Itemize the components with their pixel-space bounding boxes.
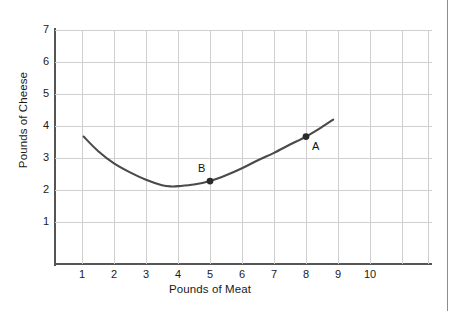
x-tick-label: 6 (230, 268, 254, 280)
point-label-a: A (312, 141, 319, 152)
x-tick-label: 4 (166, 268, 190, 280)
gridline-vertical (428, 30, 429, 264)
point-label-b: B (198, 163, 205, 174)
gridline-vertical (146, 30, 147, 264)
chart-canvas: 1234567 12345678910 Pounds of Cheese Pou… (0, 0, 459, 311)
gridline-vertical (178, 30, 179, 264)
plot-area (55, 30, 432, 264)
x-tick-label: 5 (198, 268, 222, 280)
y-tick-label: 7 (25, 24, 49, 35)
x-tick-label: 1 (70, 268, 94, 280)
gridline-horizontal (55, 94, 432, 95)
gridline-horizontal (55, 190, 432, 191)
x-tick-label: 3 (134, 268, 158, 280)
gridline-vertical (402, 30, 403, 264)
x-tick-label: 2 (102, 268, 126, 280)
x-tick-label: 8 (294, 268, 318, 280)
y-tick-label: 1 (25, 216, 49, 227)
x-tick-label: 9 (326, 268, 350, 280)
x-tick-label: 10 (358, 268, 382, 280)
gridline-vertical (306, 30, 307, 264)
gridline-vertical (274, 30, 275, 264)
gridline-vertical (82, 30, 83, 264)
gridline-horizontal (55, 62, 432, 63)
page-right-border (447, 0, 448, 311)
x-tick-label: 7 (262, 268, 286, 280)
gridline-horizontal (55, 126, 432, 127)
gridline-horizontal (55, 158, 432, 159)
gridline-vertical (370, 30, 371, 264)
gridline-vertical (242, 30, 243, 264)
x-axis-title: Pounds of Meat (110, 283, 310, 295)
y-axis-title: Pounds of Cheese (17, 40, 29, 200)
gridline-horizontal (55, 30, 432, 31)
gridline-vertical (210, 30, 211, 264)
gridline-vertical (114, 30, 115, 264)
gridline-horizontal (55, 222, 432, 223)
gridline-vertical (338, 30, 339, 264)
